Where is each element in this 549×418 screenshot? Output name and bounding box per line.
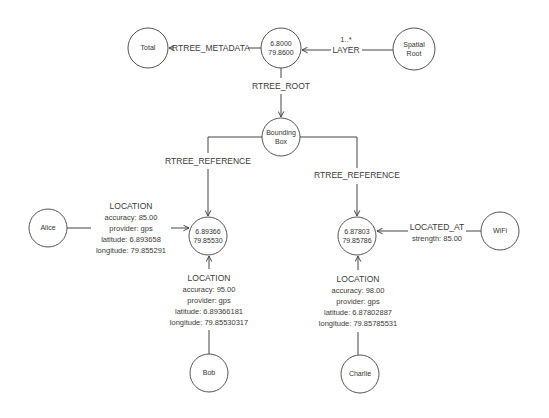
edge-alice-location: LOCATION accuracy: 85.00 provider: gps l… bbox=[67, 201, 189, 255]
node-root[interactable]: 6.8000 79.8600 bbox=[261, 28, 301, 68]
node-label-line1: 6.89366 bbox=[195, 228, 220, 235]
edge-prop-latitude: latitude: 6.87802887 bbox=[324, 308, 392, 317]
edge-rtree-reference-right: RTREE_REFERENCE bbox=[300, 137, 400, 216]
node-label-line1: 6.87803 bbox=[344, 228, 369, 235]
edge-label-charlie-location: LOCATION bbox=[337, 274, 380, 284]
edge-prop-longitude: longitude: 79.85530317 bbox=[170, 318, 248, 327]
edge-rtree-root: RTREE_ROOT bbox=[252, 68, 310, 117]
edge-prop-longitude: longitude: 79.85785531 bbox=[319, 319, 397, 328]
edge-label-rtree-metadata: RTREE_METADATA bbox=[172, 43, 250, 53]
node-label-line2: Root bbox=[407, 50, 422, 57]
edge-label-bob-location: LOCATION bbox=[188, 273, 231, 283]
edge-label-rtree-reference-left: RTREE_REFERENCE bbox=[165, 156, 251, 166]
node-alice[interactable]: Alice bbox=[29, 209, 67, 247]
edge-rtree-metadata: RTREE_METADATA bbox=[169, 43, 261, 53]
edge-cardinality-layer: 1..* bbox=[340, 35, 351, 44]
edge-label-rtree-reference-right: RTREE_REFERENCE bbox=[314, 170, 400, 180]
edge-bob-location: LOCATION accuracy: 95.00 provider: gps l… bbox=[170, 256, 248, 354]
edge-label-rtree-root: RTREE_ROOT bbox=[252, 81, 310, 91]
node-spatial-root[interactable]: Spatial Root bbox=[393, 28, 435, 70]
node-label-line2: 79.8600 bbox=[268, 49, 293, 56]
node-label-line2: 79.85786 bbox=[342, 237, 371, 244]
node-label: Alice bbox=[40, 224, 55, 231]
node-charlie[interactable]: Charlie bbox=[341, 355, 379, 393]
edge-prop-latitude: latitude: 6.89366181 bbox=[175, 307, 243, 316]
node-leaf-right[interactable]: 6.87803 79.85786 bbox=[338, 217, 376, 255]
node-wifi[interactable]: WiFi bbox=[481, 212, 519, 250]
edge-prop-provider: provider: gps bbox=[109, 224, 153, 233]
edge-charlie-location: LOCATION accuracy: 98.00 provider: gps l… bbox=[319, 256, 397, 355]
edge-label-wifi-located-at: LOCATED_AT bbox=[410, 222, 464, 232]
node-label: Charlie bbox=[349, 370, 371, 377]
node-label-line2: Box bbox=[275, 138, 288, 145]
node-label-line1: 6.8000 bbox=[270, 40, 292, 47]
node-total[interactable]: Total bbox=[128, 28, 168, 68]
edge-layer: 1..* LAYER bbox=[302, 35, 393, 55]
node-label: Total bbox=[141, 44, 156, 51]
node-leaf-left[interactable]: 6.89366 79.85530 bbox=[189, 217, 227, 255]
node-label-line1: Spatial bbox=[403, 41, 425, 49]
edge-prop-provider: provider: gps bbox=[187, 296, 231, 305]
edge-prop-longitude: longitude: 79.855291 bbox=[96, 246, 166, 255]
node-bounding-box[interactable]: Bounding Box bbox=[262, 118, 300, 156]
edge-rtree-reference-left: RTREE_REFERENCE bbox=[165, 137, 262, 216]
node-bob[interactable]: Bob bbox=[190, 354, 228, 392]
edge-prop-accuracy: accuracy: 98.00 bbox=[332, 286, 385, 295]
edge-prop-provider: provider: gps bbox=[336, 297, 380, 306]
node-label-line1: Bounding bbox=[266, 129, 296, 137]
node-label: WiFi bbox=[493, 227, 507, 234]
node-label-line2: 79.85530 bbox=[193, 237, 222, 244]
edge-prop-latitude: latitude: 6.893658 bbox=[101, 235, 161, 244]
edge-label-alice-location: LOCATION bbox=[110, 201, 153, 211]
node-label: Bob bbox=[203, 369, 216, 376]
rtree-graph-diagram: RTREE_METADATA 1..* LAYER RTREE_ROOT RTR… bbox=[0, 0, 549, 418]
edge-label-layer: LAYER bbox=[332, 45, 359, 55]
edge-prop-accuracy: accuracy: 95.00 bbox=[183, 285, 236, 294]
edge-prop-strength: strength: 85.00 bbox=[412, 234, 462, 243]
edge-wifi-located-at: LOCATED_AT strength: 85.00 bbox=[377, 222, 481, 243]
edge-prop-accuracy: accuracy: 85.00 bbox=[105, 213, 158, 222]
